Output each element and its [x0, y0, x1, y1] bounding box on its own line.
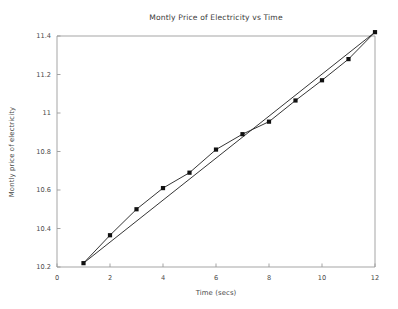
figure-background: [0, 0, 398, 309]
data-marker: [267, 120, 271, 124]
chart-title: Montly Price of Electricity vs Time: [149, 13, 283, 22]
electricity-price-line-chart: Montly Price of Electricity vs Time 0246…: [0, 0, 398, 309]
y-tick-label: 11.4: [36, 32, 51, 40]
x-tick-label: 10: [318, 274, 326, 282]
x-tick-label: 0: [55, 274, 59, 282]
x-tick-label: 2: [108, 274, 112, 282]
data-marker: [187, 171, 191, 175]
y-tick-label: 10.8: [36, 148, 51, 156]
data-marker: [293, 98, 297, 102]
data-marker: [134, 207, 138, 211]
data-marker: [320, 78, 324, 82]
y-tick-label: 11: [43, 109, 51, 117]
x-tick-label: 12: [371, 274, 379, 282]
x-tick-label: 8: [267, 274, 271, 282]
chart-figure: Montly Price of Electricity vs Time 0246…: [0, 0, 398, 309]
data-marker: [161, 186, 165, 190]
y-axis-label: Montly price of electricity: [8, 107, 16, 197]
y-tick-label: 11.2: [36, 71, 51, 79]
y-tick-label: 10.2: [36, 263, 51, 271]
x-axis-label: Time (secs): [195, 289, 237, 297]
data-marker: [81, 261, 85, 265]
data-marker: [108, 233, 112, 237]
data-marker: [214, 147, 218, 151]
y-tick-label: 10.4: [36, 225, 51, 233]
data-marker: [240, 132, 244, 136]
x-tick-label: 6: [214, 274, 218, 282]
data-marker: [346, 57, 350, 61]
data-marker: [373, 30, 377, 34]
y-tick-label: 10.6: [36, 186, 51, 194]
x-tick-label: 4: [161, 274, 165, 282]
